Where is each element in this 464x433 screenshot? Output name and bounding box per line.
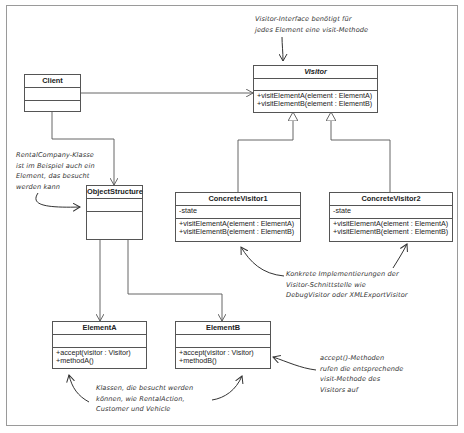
attributes-compartment: -state	[330, 206, 452, 219]
realization-cv1-visitor	[238, 112, 293, 192]
class-name: ConcreteVisitor1	[176, 193, 300, 206]
class-elementa[interactable]: ElementA +accept(visitor : Visitor) +met…	[52, 321, 147, 369]
class-name: Client	[25, 75, 80, 88]
note-visitor-interface: Visitor-Interface benötigt für jedes Ele…	[255, 14, 368, 35]
method: +visitElementB(element : ElementB)	[179, 228, 297, 236]
note-concrete-implementations: Konkrete Implementierungen der Visitor-S…	[286, 269, 408, 301]
note-rental-company: RentalCompany-Klasse ist im Beispiel auc…	[16, 150, 95, 192]
methods-compartment: +accept(visitor : Visitor) +methodB()	[176, 348, 270, 366]
class-visitor[interactable]: Visitor +visitElementA(element : Element…	[253, 65, 378, 113]
class-concretevisitor1[interactable]: ConcreteVisitor1 -state +visitElementA(e…	[175, 192, 301, 242]
class-name: ObjectStructure	[87, 186, 142, 199]
attributes-compartment	[53, 335, 146, 348]
class-name: Visitor	[254, 66, 377, 79]
attributes-compartment: -state	[176, 206, 300, 219]
attribute: -state	[333, 207, 449, 215]
note-arrow-visitor-interface	[282, 37, 283, 61]
class-name: ElementA	[53, 322, 146, 335]
attributes-compartment	[25, 88, 80, 101]
note-arrow-accept-methods	[273, 357, 316, 370]
realization-cv2-visitor	[331, 112, 390, 192]
methods-compartment	[87, 212, 142, 240]
class-name: ElementB	[176, 322, 270, 335]
class-client[interactable]: Client	[24, 74, 81, 112]
note-accept-methods: accept()-Methoden rufen die entsprechend…	[320, 353, 404, 395]
class-concretevisitor2[interactable]: ConcreteVisitor2 -state +visitElementA(e…	[329, 192, 453, 242]
note-visitable-classes: Klassen, die besucht werden können, wie …	[96, 383, 193, 415]
association-objectstructure-elementb	[128, 239, 222, 321]
method: +methodA()	[56, 357, 143, 365]
methods-compartment: +accept(visitor : Visitor) +methodA()	[53, 348, 146, 366]
note-arrow-visitable-elementa	[69, 375, 89, 402]
attributes-compartment	[176, 335, 270, 348]
note-arrow-concrete-impl-cv2	[393, 244, 407, 268]
attributes-compartment	[254, 79, 377, 91]
method: +visitElementB(element : ElementB)	[257, 100, 374, 108]
attributes-compartment	[87, 199, 142, 212]
class-elementb[interactable]: ElementB +accept(visitor : Visitor) +met…	[175, 321, 271, 369]
methods-compartment: +visitElementA(element : ElementA) +visi…	[176, 219, 300, 237]
method: +methodB()	[179, 357, 267, 365]
class-name: ConcreteVisitor2	[330, 193, 452, 206]
methods-compartment: +visitElementA(element : ElementA) +visi…	[254, 91, 377, 109]
note-arrow-rental-company	[36, 193, 80, 207]
note-arrow-visitable-elementb	[212, 376, 242, 400]
methods-compartment	[25, 101, 80, 113]
class-objectstructure[interactable]: ObjectStructure	[86, 185, 143, 240]
methods-compartment: +visitElementA(element : ElementA) +visi…	[330, 219, 452, 237]
note-arrow-concrete-impl-cv1	[241, 247, 284, 276]
method: +visitElementB(element : ElementB)	[333, 228, 449, 236]
attribute: -state	[179, 207, 297, 215]
